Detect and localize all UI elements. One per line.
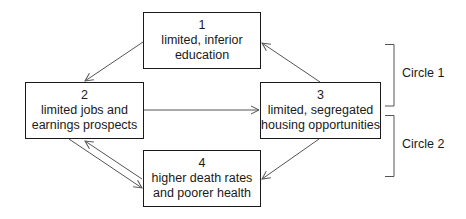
circle-2-label: Circle 2 [402,137,444,151]
diagram-canvas: 1 limited, inferior education 2 limited … [0,0,466,219]
box-1-education: 1 limited, inferior education [143,12,261,69]
box-number: 4 [199,156,206,171]
box-text-line: education [175,48,229,63]
arrow-1-to-2 [85,42,143,81]
box-text-line: limited, segregated [268,103,374,118]
box-number: 1 [199,18,206,33]
circle-1-label: Circle 1 [402,66,444,80]
box-text-line: earnings prospects [32,118,138,133]
box-4-health: 4 higher death rates and poorer health [143,150,261,207]
box-text-line: housing opportunities [261,118,380,133]
box-3-housing: 3 limited, segregated housing opportunit… [260,82,381,139]
box-text-line: limited jobs and [41,103,128,118]
bracket-circle-2 [385,116,394,177]
arrow-4-to-2 [85,141,142,179]
box-text-line: limited, inferior [161,33,242,48]
box-2-jobs: 2 limited jobs and earnings prospects [25,82,144,139]
arrow-3-to-1 [262,43,320,82]
box-text-line: higher death rates [152,171,253,186]
box-number: 2 [81,88,88,103]
arrow-3-to-4 [262,139,319,179]
bracket-circle-1 [385,45,394,107]
box-number: 3 [317,88,324,103]
box-text-line: and poorer health [153,186,251,201]
arrow-2-to-4 [69,139,142,188]
